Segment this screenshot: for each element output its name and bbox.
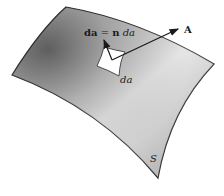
surface-label: S bbox=[150, 153, 157, 164]
patch-label: da bbox=[120, 74, 132, 85]
field-label: A bbox=[183, 24, 192, 35]
area-vector-label: da = n da bbox=[84, 27, 135, 38]
surface-diagram: da = n da A da S bbox=[0, 0, 224, 196]
